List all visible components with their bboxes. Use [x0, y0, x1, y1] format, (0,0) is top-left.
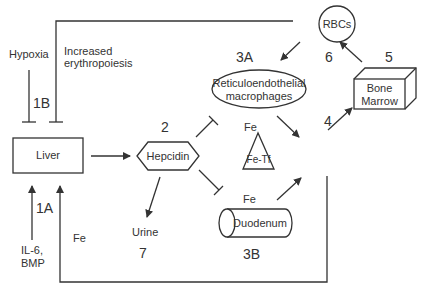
step-6: 6: [325, 50, 333, 64]
step-4: 4: [324, 114, 332, 128]
diagram-shapes: [0, 0, 424, 284]
rbcs-label: RBCs: [319, 18, 355, 30]
duodenum-label: Duodenum: [232, 217, 288, 229]
macrophages-label-line1: Reticuloendothelial: [212, 77, 306, 89]
step-3b: 3B: [243, 247, 260, 261]
fe-liver-label: Fe: [73, 232, 86, 244]
liver-label: Liver: [13, 149, 83, 161]
increased-erythropoiesis-line1: Increased: [64, 45, 112, 57]
fe-tf-label: Fe-Tf: [243, 154, 274, 166]
step-2: 2: [161, 120, 169, 134]
hypoxia-label: Hypoxia: [9, 48, 49, 60]
macrophages-label-line2: macrophages: [212, 90, 306, 102]
step-5: 5: [385, 50, 393, 64]
increased-erythropoiesis-line2: erythropoiesis: [64, 57, 132, 69]
il6-label-line1: IL-6,: [21, 244, 43, 256]
hepcidin-iron-regulation-diagram: Liver Hepcidin Reticuloendothelial macro…: [0, 0, 424, 284]
macrophages-ellipse: [212, 70, 306, 108]
fe-duodenum-label: Fe: [243, 193, 256, 205]
bone-marrow-label-line1: Bone: [354, 82, 405, 94]
bone-marrow-label-line2: Marrow: [354, 95, 405, 107]
step-3a: 3A: [236, 50, 253, 64]
step-1b: 1B: [33, 96, 50, 110]
il6-label-line2: BMP: [21, 257, 45, 269]
step-1a: 1A: [36, 201, 53, 215]
urine-label: Urine: [132, 226, 158, 238]
fe-macrophage-label: Fe: [244, 121, 257, 133]
hepcidin-label: Hepcidin: [140, 150, 196, 162]
step-7: 7: [139, 246, 147, 260]
